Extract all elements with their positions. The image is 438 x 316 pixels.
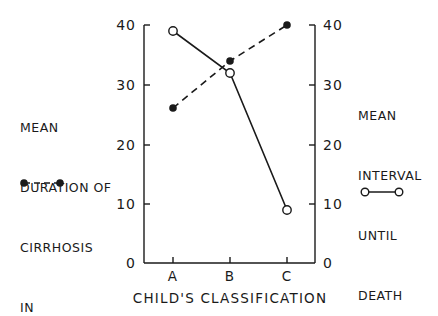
- left-ytick: 30: [116, 77, 136, 93]
- marker-open: [283, 206, 291, 214]
- series-interval-until-death: [169, 27, 291, 214]
- legend-dashed-filled: [20, 179, 64, 187]
- marker-open: [226, 69, 234, 77]
- left-ytick: 0: [126, 255, 136, 271]
- marker-open: [169, 27, 177, 35]
- right-ytick: 30: [323, 77, 343, 93]
- left-ytick: 20: [116, 137, 136, 153]
- right-ytick: 10: [323, 196, 343, 212]
- marker-filled: [226, 57, 234, 65]
- left-ytick: 10: [116, 196, 136, 212]
- marker-filled: [283, 21, 291, 29]
- legend-solid-open: [361, 188, 403, 196]
- marker-filled: [169, 104, 177, 112]
- right-ytick: 40: [323, 17, 343, 33]
- xtick-c: C: [282, 268, 293, 284]
- series-duration-cirrhosis: [169, 21, 291, 112]
- right-ytick: 20: [323, 137, 343, 153]
- chart-canvas: 40 30 20 10 0 40 30 20 10 0 A B C CHILD'…: [0, 0, 438, 316]
- x-axis-title: CHILD'S CLASSIFICATION: [133, 290, 327, 306]
- xtick-a: A: [168, 268, 178, 284]
- xtick-b: B: [225, 268, 235, 284]
- right-ytick: 0: [323, 255, 333, 271]
- left-ytick: 40: [116, 17, 136, 33]
